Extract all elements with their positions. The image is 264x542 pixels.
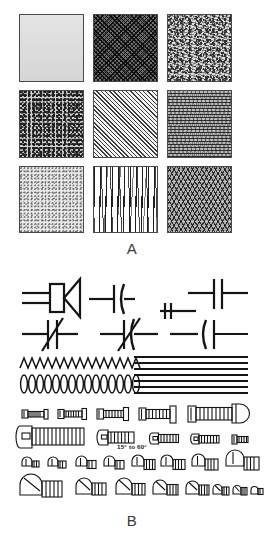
binding-head-screw-large [226,450,259,470]
texture-crosshatch-dark [94,15,157,81]
round-head-screw-small [233,486,247,496]
texture-swatch-4 [19,90,84,158]
capacitor-small-symbol [160,303,196,319]
texture-stipple-dense [20,91,83,157]
variable-capacitor-symbol-1 [22,318,78,351]
round-head-screw-large [20,474,62,497]
texture-swatch-7 [19,166,84,233]
panel-a: A [0,0,264,271]
capacitor-curved-symbol-1 [89,284,135,314]
helical-coil-spring [21,375,140,393]
texture-woodgrain-vertical [94,167,157,232]
texture-swatch-grid [19,14,233,233]
fillister-screw-row-1 [22,404,250,423]
round-head-screw-small [251,487,263,495]
fillister-head-screw [188,404,250,423]
texture-solid-light-tone [20,15,83,81]
binding-head-screw [161,455,185,470]
figure-page: A [0,0,264,542]
fillister-head-screw [22,410,48,420]
round-head-screw [22,457,39,467]
angle-annotation: 15° to 60° [0,443,264,450]
panel-b: 15° to 60° B [0,271,264,542]
fillister-head-screw [139,406,176,423]
zigzag-spring [20,358,140,368]
fillister-head-screw [58,409,87,420]
round-head-screw [153,480,178,495]
texture-swatch-1 [19,14,84,82]
round-head-screw [76,456,96,469]
texture-random-noise-coarse [168,15,231,81]
round-head-screw [104,456,124,469]
texture-horizontal-wave-lines [168,91,231,157]
variable-capacitor-symbol-2 [100,318,158,351]
capacitor-pair-symbol-lower [170,320,248,349]
capacitor-pair-symbol-upper [188,279,248,309]
texture-stipple-light [20,167,83,232]
binding-head-screw [132,455,155,470]
round-head-screw [48,457,66,468]
round-head-screw [186,481,209,495]
texture-swatch-2 [93,14,158,82]
ruled-line-bundle [134,357,248,393]
texture-swatch-6 [167,90,232,158]
texture-swatch-5 [93,90,158,158]
round-head-screw-small [213,485,229,496]
texture-swatch-8 [93,166,158,233]
texture-swatch-9 [167,166,232,233]
panel-b-label: B [0,512,264,529]
round-head-screw-row-1 [22,450,259,470]
texture-zigzag-dense [168,167,231,232]
panel-a-label: A [0,240,264,257]
fillister-head-screw [97,408,129,421]
round-head-screw [116,478,145,495]
binding-head-screw [192,454,218,470]
texture-swatch-3 [167,14,232,82]
round-head-screw [76,478,106,495]
texture-diagonal-hatch-45 [94,91,157,157]
